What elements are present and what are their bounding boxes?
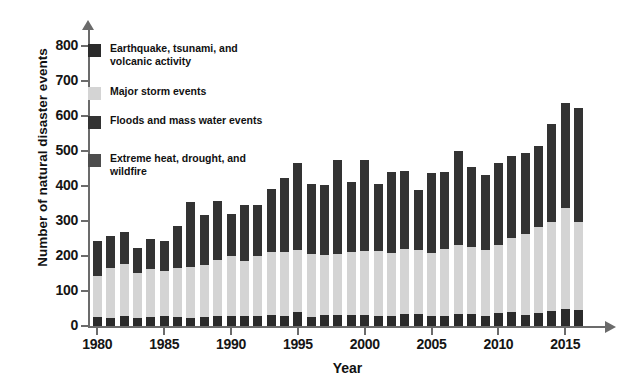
- bar-1985: [160, 241, 169, 326]
- bar-segment: [534, 146, 543, 227]
- bar-1994: [280, 178, 289, 326]
- bar-segment: [213, 316, 222, 327]
- x-tick-2010: [497, 328, 499, 335]
- bar-segment: [440, 172, 449, 249]
- bar-segment: [320, 255, 329, 315]
- bar-segment: [227, 256, 236, 316]
- y-tick-700: [81, 80, 88, 82]
- legend-swatch-icon: [88, 154, 101, 167]
- bar-segment: [267, 252, 276, 315]
- bar-segment: [186, 318, 195, 326]
- y-tick-500: [81, 150, 88, 152]
- bar-2000: [360, 160, 369, 326]
- y-tick-800: [81, 45, 88, 47]
- bar-segment: [160, 316, 169, 327]
- bar-segment: [467, 167, 476, 247]
- bar-segment: [360, 160, 369, 251]
- bar-segment: [414, 190, 423, 250]
- x-axis-title: Year: [88, 360, 607, 376]
- bar-segment: [374, 251, 383, 316]
- bar-1983: [133, 248, 142, 326]
- x-tick-label-2005: 2005: [409, 336, 455, 352]
- bar-2011: [507, 156, 516, 326]
- x-tick-label-1980: 1980: [74, 336, 120, 352]
- bar-segment: [507, 312, 516, 326]
- x-tick-label-1990: 1990: [208, 336, 254, 352]
- bar-1989: [213, 201, 222, 326]
- bar-segment: [494, 163, 503, 245]
- bar-segment: [400, 249, 409, 314]
- bar-2004: [414, 190, 423, 326]
- bar-segment: [307, 254, 316, 317]
- bar-segment: [574, 222, 583, 310]
- x-tick-1990: [230, 328, 232, 335]
- legend-swatch-icon: [88, 44, 101, 57]
- bar-segment: [561, 103, 570, 208]
- bar-segment: [146, 269, 155, 317]
- bar-segment: [173, 268, 182, 317]
- bar-1986: [173, 226, 182, 326]
- bar-segment: [427, 173, 436, 253]
- bar-segment: [120, 264, 129, 315]
- bar-2003: [400, 171, 409, 326]
- bar-segment: [481, 316, 490, 327]
- bar-1987: [186, 202, 195, 326]
- bar-segment: [521, 234, 530, 315]
- bar-segment: [347, 252, 356, 315]
- bar-segment: [454, 245, 463, 314]
- y-tick-label-0: 0: [34, 317, 78, 333]
- bar-segment: [440, 249, 449, 316]
- bar-1997: [320, 185, 329, 326]
- bar-segment: [561, 208, 570, 309]
- bar-segment: [267, 315, 276, 326]
- bar-segment: [186, 202, 195, 267]
- bar-segment: [240, 316, 249, 326]
- bar-2008: [467, 167, 476, 326]
- x-tick-label-2000: 2000: [342, 336, 388, 352]
- bar-segment: [333, 160, 342, 254]
- bar-segment: [240, 205, 249, 261]
- bar-segment: [547, 124, 556, 222]
- bar-1996: [307, 184, 316, 326]
- bar-1988: [200, 215, 209, 326]
- bar-segment: [280, 178, 289, 252]
- legend-label: Earthquake, tsunami, and volcanic activi…: [110, 42, 270, 67]
- bar-segment: [521, 315, 530, 326]
- bar-2007: [454, 151, 463, 326]
- bar-1982: [120, 232, 129, 327]
- x-tick-label-1995: 1995: [275, 336, 321, 352]
- bar-segment: [494, 245, 503, 313]
- bar-segment: [521, 153, 530, 234]
- bar-1981: [106, 236, 115, 326]
- bar-segment: [293, 163, 302, 250]
- bar-segment: [186, 267, 195, 319]
- y-tick-300: [81, 220, 88, 222]
- y-tick-100: [81, 290, 88, 292]
- bar-segment: [106, 268, 115, 318]
- bar-segment: [213, 260, 222, 316]
- bar-segment: [414, 314, 423, 326]
- bar-segment: [173, 317, 182, 326]
- bar-segment: [360, 315, 369, 326]
- bar-segment: [280, 316, 289, 327]
- bar-segment: [200, 317, 209, 326]
- x-axis-line: [88, 326, 607, 328]
- bar-segment: [133, 248, 142, 273]
- bar-segment: [374, 316, 383, 327]
- bar-segment: [534, 227, 543, 314]
- bar-segment: [454, 314, 463, 326]
- bar-2009: [481, 175, 490, 326]
- x-tick-label-2010: 2010: [475, 336, 521, 352]
- bar-segment: [574, 108, 583, 222]
- bar-1995: [293, 163, 302, 326]
- bar-segment: [360, 251, 369, 315]
- bar-1990: [227, 214, 236, 326]
- bar-segment: [93, 241, 102, 275]
- bar-segment: [227, 214, 236, 256]
- bar-segment: [400, 171, 409, 249]
- legend-label: Extreme heat, drought, and wildfire: [110, 152, 270, 177]
- bar-segment: [427, 253, 436, 316]
- legend-swatch-icon: [88, 116, 101, 129]
- bar-segment: [146, 317, 155, 326]
- bar-1991: [240, 205, 249, 326]
